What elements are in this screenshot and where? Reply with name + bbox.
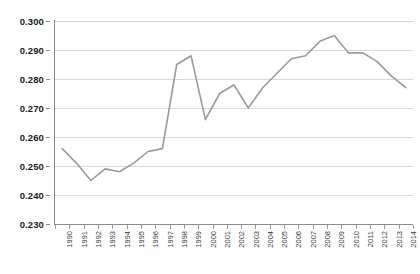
- x-axis-label: 2008: [323, 231, 332, 248]
- x-axis-label: 2002: [237, 231, 246, 248]
- x-axis-label: 2001: [223, 231, 232, 248]
- x-axis-tick: [298, 225, 299, 229]
- x-axis-label: 2000: [209, 231, 218, 248]
- x-axis-label: 2003: [252, 231, 261, 248]
- x-axis-tick: [69, 225, 70, 229]
- x-axis-label: 1992: [94, 231, 103, 248]
- x-axis-label: 1999: [194, 231, 203, 248]
- x-axis-label: 1994: [123, 231, 132, 248]
- x-axis-tick: [198, 225, 199, 229]
- x-axis-label: 1998: [180, 231, 189, 248]
- x-axis-tick: [98, 225, 99, 229]
- x-axis: 1990199119921993199419951996199719981999…: [0, 0, 420, 274]
- x-axis-tick: [313, 225, 314, 229]
- x-axis-label: 2009: [337, 231, 346, 248]
- x-axis-tick: [255, 225, 256, 229]
- x-axis-tick: [241, 225, 242, 229]
- x-axis-label: 2013: [395, 231, 404, 248]
- x-axis-tick: [213, 225, 214, 229]
- x-axis-tick: [413, 225, 414, 229]
- x-axis-tick: [141, 225, 142, 229]
- x-axis-label: 2014: [409, 231, 418, 248]
- x-axis-tick: [384, 225, 385, 229]
- x-axis-label: 1997: [166, 231, 175, 248]
- x-axis-label: 1995: [137, 231, 146, 248]
- x-axis-label: 2010: [352, 231, 361, 248]
- x-axis-tick: [155, 225, 156, 229]
- x-axis-tick: [284, 225, 285, 229]
- x-axis-tick: [127, 225, 128, 229]
- line-chart: 0.3000.2900.2800.2700.2600.2500.2400.230…: [0, 0, 420, 274]
- x-axis-tick: [112, 225, 113, 229]
- x-axis-label: 2006: [294, 231, 303, 248]
- x-axis-tick: [55, 225, 56, 229]
- x-axis-label: 1990: [65, 231, 74, 248]
- x-axis-tick: [184, 225, 185, 229]
- x-axis-label: 1993: [108, 231, 117, 248]
- x-axis-label: 1996: [151, 231, 160, 248]
- x-axis-tick: [370, 225, 371, 229]
- x-axis-tick: [341, 225, 342, 229]
- x-axis-tick: [170, 225, 171, 229]
- x-axis-tick: [356, 225, 357, 229]
- x-axis-tick: [84, 225, 85, 229]
- x-axis-label: 2007: [309, 231, 318, 248]
- x-axis-tick: [270, 225, 271, 229]
- x-axis-tick: [399, 225, 400, 229]
- x-axis-label: 2011: [366, 231, 375, 247]
- x-axis-label: 2005: [280, 231, 289, 248]
- x-axis-label: 2004: [266, 231, 275, 248]
- x-axis-tick: [227, 225, 228, 229]
- x-axis-tick: [327, 225, 328, 229]
- x-axis-label: 1991: [80, 231, 89, 248]
- x-axis-label: 2012: [380, 231, 389, 248]
